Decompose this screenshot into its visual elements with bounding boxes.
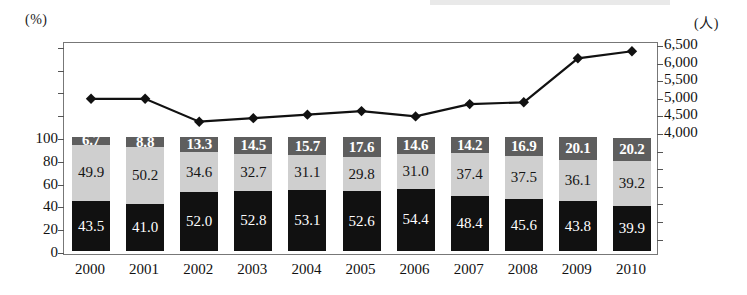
bar-segment-value: 41.0 bbox=[126, 204, 164, 251]
right-axis-tick-mark bbox=[657, 81, 663, 82]
left-axis-tick-mark bbox=[58, 48, 64, 49]
x-axis-tick-label: 2008 bbox=[496, 262, 550, 277]
x-axis-tick-label: 2010 bbox=[604, 262, 658, 277]
x-axis-tick-label: 2005 bbox=[333, 262, 387, 277]
bar-segment-value: 17.6 bbox=[343, 137, 381, 157]
left-axis-tick-label: 60 bbox=[14, 177, 58, 192]
stacked-bar[interactable]: 8.850.241.0 bbox=[126, 137, 164, 251]
left-axis-tick-label: 100 bbox=[14, 131, 58, 146]
bar-segment-value: 52.8 bbox=[234, 191, 272, 251]
bar-segment-value: 34.6 bbox=[180, 152, 218, 191]
left-axis-tick-label: 80 bbox=[14, 154, 58, 169]
stacked-bar[interactable]: 14.631.054.4 bbox=[397, 137, 435, 251]
line-series-marker[interactable] bbox=[86, 94, 96, 104]
left-axis-tick-mark bbox=[58, 116, 64, 117]
right-axis-tick-mark bbox=[657, 222, 663, 223]
x-axis-tick-label: 2006 bbox=[388, 262, 442, 277]
line-series-marker[interactable] bbox=[464, 99, 474, 109]
right-axis-tick-label: 4,000 bbox=[664, 125, 738, 140]
scan-artifact-band bbox=[430, 0, 670, 5]
line-series-marker[interactable] bbox=[356, 106, 366, 116]
bar-segment-value: 16.9 bbox=[505, 137, 543, 156]
bar-segment-value: 45.6 bbox=[505, 199, 543, 251]
x-axis-tick-label: 2003 bbox=[225, 262, 279, 277]
left-axis-tick-mark bbox=[58, 139, 64, 140]
left-axis-tick-mark bbox=[58, 207, 64, 208]
bar-segment-value: 50.2 bbox=[126, 147, 164, 204]
stacked-bar[interactable]: 14.532.752.8 bbox=[234, 137, 272, 251]
bar-segment-value: 37.5 bbox=[505, 156, 543, 199]
stacked-bar[interactable]: 6.749.943.5 bbox=[72, 137, 110, 251]
right-axis-tick-label: 4,500 bbox=[664, 107, 738, 122]
bar-segment-value: 14.6 bbox=[397, 137, 435, 154]
stacked-bar[interactable]: 20.239.239.9 bbox=[613, 138, 651, 251]
right-axis-tick-mark bbox=[657, 116, 663, 117]
left-axis-tick-label: 40 bbox=[14, 199, 58, 214]
left-axis-tick-label: 0 bbox=[14, 245, 58, 260]
left-axis-tick-mark bbox=[58, 230, 64, 231]
x-axis-tick-label: 2007 bbox=[442, 262, 496, 277]
left-axis-tick-mark bbox=[58, 93, 64, 94]
right-axis-tick-mark bbox=[657, 99, 663, 100]
line-series-marker[interactable] bbox=[410, 111, 420, 121]
right-axis-tick-mark bbox=[657, 204, 663, 205]
bar-segment-value: 43.5 bbox=[72, 201, 110, 251]
right-axis-tick-label: 6,000 bbox=[664, 55, 738, 70]
bar-segment-value: 54.4 bbox=[397, 189, 435, 251]
right-axis-labels: 6,5006,0005,5005,0004,5004,000 bbox=[664, 42, 742, 255]
bar-segment-value: 32.7 bbox=[234, 154, 272, 191]
left-axis-tick-label: 20 bbox=[14, 222, 58, 237]
bar-segment-value: 36.1 bbox=[559, 160, 597, 201]
stacked-bar[interactable]: 15.731.153.1 bbox=[288, 137, 326, 251]
line-series-marker[interactable] bbox=[194, 116, 204, 126]
right-axis-tick-mark bbox=[657, 240, 663, 241]
right-axis-tick-label: 5,500 bbox=[664, 72, 738, 87]
bar-segment-value: 8.8 bbox=[126, 137, 164, 147]
bar-segment-value: 39.2 bbox=[613, 161, 651, 206]
stacked-bar[interactable]: 14.237.448.4 bbox=[451, 137, 489, 251]
bar-segment-value: 48.4 bbox=[451, 196, 489, 251]
line-series-marker[interactable] bbox=[627, 46, 637, 56]
right-axis-tick-mark bbox=[657, 64, 663, 65]
left-axis-tick-mark bbox=[58, 71, 64, 72]
bar-segment-value: 37.4 bbox=[451, 153, 489, 196]
right-axis-unit-label: (人) bbox=[694, 12, 719, 32]
right-axis-tick-label: 6,500 bbox=[664, 37, 738, 52]
bar-segment-value: 14.2 bbox=[451, 137, 489, 153]
left-axis-labels: 100806040200 bbox=[8, 42, 58, 255]
line-series-marker[interactable] bbox=[140, 94, 150, 104]
bar-segment-value: 20.2 bbox=[613, 138, 651, 161]
stacked-bar[interactable]: 20.136.143.8 bbox=[559, 137, 597, 251]
bar-segment-value: 6.7 bbox=[72, 137, 110, 145]
line-series-marker[interactable] bbox=[302, 109, 312, 119]
left-axis-unit-label: (%) bbox=[25, 12, 48, 28]
bar-segment-value: 31.1 bbox=[288, 155, 326, 190]
bar-segment-value: 52.6 bbox=[343, 191, 381, 251]
right-axis-tick-mark bbox=[657, 134, 663, 135]
bar-segment-value: 52.0 bbox=[180, 192, 218, 251]
stacked-bar[interactable]: 17.629.852.6 bbox=[343, 137, 381, 251]
bar-segment-value: 49.9 bbox=[72, 145, 110, 202]
bar-segment-value: 13.3 bbox=[180, 137, 218, 152]
right-axis-tick-mark bbox=[657, 152, 663, 153]
x-axis-tick-label: 2002 bbox=[171, 262, 225, 277]
bar-segment-value: 43.8 bbox=[559, 201, 597, 251]
left-axis-tick-mark bbox=[58, 253, 64, 254]
right-axis-tick-mark bbox=[657, 46, 663, 47]
x-axis-tick-label: 2001 bbox=[117, 262, 171, 277]
bar-segment-value: 53.1 bbox=[288, 190, 326, 251]
plot-area: 6.749.943.58.850.241.013.334.652.014.532… bbox=[63, 42, 658, 255]
bar-segment-value: 14.5 bbox=[234, 137, 272, 154]
stacked-bar[interactable]: 13.334.652.0 bbox=[180, 137, 218, 251]
bar-segment-value: 15.7 bbox=[288, 137, 326, 155]
x-axis-tick-label: 2009 bbox=[550, 262, 604, 277]
right-axis-tick-mark bbox=[657, 187, 663, 188]
left-axis-tick-mark bbox=[58, 185, 64, 186]
x-axis-tick-label: 2004 bbox=[279, 262, 333, 277]
right-axis-tick-label: 5,000 bbox=[664, 90, 738, 105]
line-series-marker[interactable] bbox=[248, 113, 258, 123]
x-axis-tick-label: 2000 bbox=[63, 262, 117, 277]
right-axis-tick-mark bbox=[657, 169, 663, 170]
stacked-bar[interactable]: 16.937.545.6 bbox=[505, 137, 543, 251]
bar-segment-value: 39.9 bbox=[613, 206, 651, 251]
